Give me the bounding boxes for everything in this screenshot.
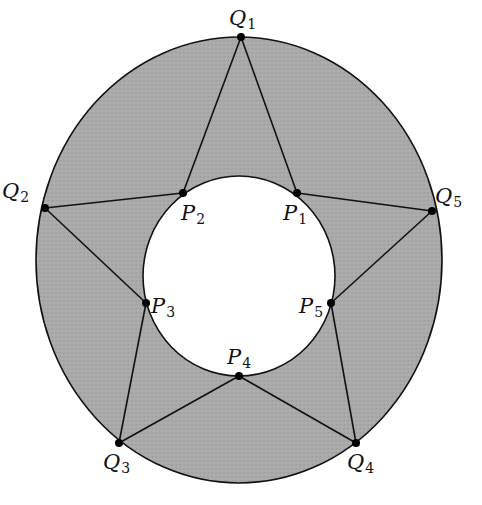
label-q5: Q5 — [435, 186, 462, 209]
point-p3 — [142, 299, 150, 307]
label-letter: P — [299, 294, 313, 318]
label-subscript: 1 — [298, 211, 307, 227]
diagram-canvas — [0, 0, 482, 505]
label-q1: Q1 — [229, 8, 256, 31]
label-q2: Q2 — [2, 181, 29, 204]
label-subscript: 1 — [247, 16, 256, 32]
point-q1 — [237, 33, 245, 41]
point-q4 — [352, 439, 360, 447]
label-letter: P — [227, 345, 241, 369]
point-q3 — [115, 439, 123, 447]
label-subscript: 2 — [196, 211, 205, 227]
label-letter: Q — [435, 184, 452, 208]
annulus-star-diagram: Q1Q2Q3Q4Q5P1P2P3P4P5 — [0, 0, 482, 505]
label-q3: Q3 — [103, 452, 130, 475]
point-p2 — [179, 189, 187, 197]
point-p4 — [235, 372, 243, 380]
point-p1 — [293, 189, 301, 197]
label-subscript: 5 — [453, 194, 462, 210]
label-letter: Q — [229, 6, 246, 30]
point-p5 — [327, 299, 335, 307]
label-subscript: 4 — [242, 355, 251, 371]
point-q2 — [41, 204, 49, 212]
label-letter: Q — [347, 450, 364, 474]
label-letter: P — [151, 294, 165, 318]
label-q4: Q4 — [347, 452, 374, 475]
label-p1: P1 — [283, 203, 307, 226]
label-letter: P — [181, 201, 195, 225]
label-subscript: 2 — [20, 189, 29, 205]
label-p5: P5 — [299, 296, 323, 319]
label-subscript: 3 — [121, 460, 130, 476]
label-subscript: 3 — [166, 304, 175, 320]
label-p3: P3 — [151, 296, 175, 319]
label-subscript: 4 — [365, 460, 374, 476]
label-subscript: 5 — [314, 304, 323, 320]
label-letter: Q — [103, 450, 120, 474]
label-p2: P2 — [181, 203, 205, 226]
label-p4: P4 — [227, 347, 251, 370]
label-letter: P — [283, 201, 297, 225]
label-letter: Q — [2, 179, 19, 203]
